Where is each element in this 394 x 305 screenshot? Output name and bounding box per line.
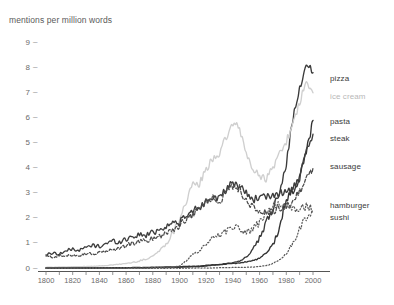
series-label-sushi: sushi (330, 213, 349, 222)
plot-area (0, 0, 394, 305)
series-line-steak (46, 134, 313, 255)
line-chart: mentions per million words 0–1–2–3–4–5–6… (0, 0, 394, 305)
series-label-ice-cream: ice cream (330, 92, 366, 101)
series-label-pizza: pizza (330, 74, 349, 83)
series-line-ice-cream (46, 82, 313, 268)
series-label-sausage: sausage (330, 162, 361, 171)
series-label-pasta: pasta (330, 117, 350, 126)
series-label-steak: steak (330, 134, 350, 143)
series-label-hamburger: hamburger (330, 201, 370, 210)
